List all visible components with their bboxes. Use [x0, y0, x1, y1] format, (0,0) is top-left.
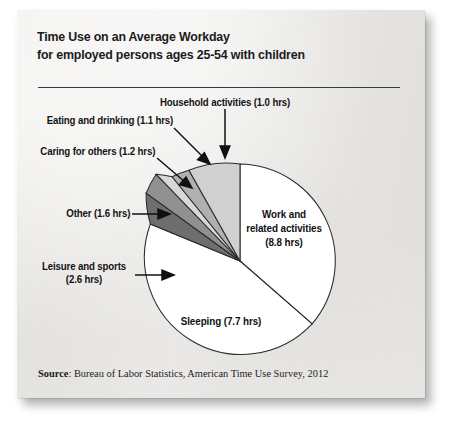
label-household-activities: Household activities (1.0 hrs) [147, 96, 303, 109]
label-leisure-and-sports: Leisure and sports (2.6 hrs) [36, 260, 133, 286]
source-value: : Bureau of Labor Statistics, American T… [68, 368, 328, 379]
label-other: Other (1.6 hrs) [28, 207, 131, 220]
label-eating-and-drinking-text: Eating and drinking (1.1 hrs) [47, 115, 174, 126]
chart-card: Time Use on an Average Workday for emplo… [17, 10, 425, 398]
source-note: Source: Bureau of Labor Statistics, Amer… [38, 368, 406, 379]
label-caring-for-others: Caring for others (1.2 hrs) [15, 145, 156, 158]
pie-chart-svg [17, 10, 425, 398]
pie-chart: Household activities (1.0 hrs) Eating an… [17, 10, 425, 398]
label-work-line-1: Work and [220, 208, 347, 222]
screenshot-root: Time Use on an Average Workday for emplo… [0, 0, 449, 422]
label-work-line-3: (8.8 hrs) [220, 236, 347, 250]
label-work-and-related-activities: Work and related activities (8.8 hrs) [220, 208, 347, 250]
label-sleeping-text: Sleeping (7.7 hrs) [181, 316, 262, 327]
label-eating-and-drinking: Eating and drinking (1.1 hrs) [29, 114, 173, 127]
label-sleeping: Sleeping (7.7 hrs) [163, 315, 279, 329]
label-caring-for-others-text: Caring for others (1.2 hrs) [40, 146, 155, 157]
leader-eating [174, 128, 203, 157]
chart-card-inner: Time Use on an Average Workday for emplo… [17, 10, 425, 398]
label-other-text: Other (1.6 hrs) [66, 208, 130, 219]
arrowhead-household [220, 146, 230, 158]
source-label: Source [38, 368, 68, 379]
label-work-line-2: related activities [220, 222, 347, 236]
label-leisure-line-2: (2.6 hrs) [36, 273, 133, 286]
label-household-activities-text: Household activities (1.0 hrs) [160, 97, 290, 108]
label-leisure-line-1: Leisure and sports [36, 260, 133, 273]
